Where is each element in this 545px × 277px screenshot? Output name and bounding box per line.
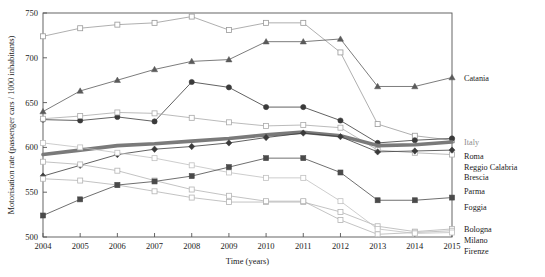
data-point-open-square [41, 34, 46, 39]
data-point-open-square [264, 20, 269, 25]
x-tick-label: 2012 [332, 241, 349, 251]
data-point-open-square [189, 187, 194, 192]
data-point-open-square [264, 123, 269, 128]
legend-label-foggia: Foggia [464, 203, 487, 212]
data-point-open-square [301, 123, 306, 128]
data-point-open-square [152, 156, 157, 161]
x-tick-label: 2015 [444, 241, 461, 251]
data-point-filled-circle [226, 85, 231, 90]
legend-label-italy: Italy [464, 138, 480, 147]
legend-label-catania: Catania [464, 74, 489, 83]
data-point-open-square [301, 175, 306, 180]
data-point-open-square [115, 22, 120, 27]
data-point-open-square [375, 226, 380, 231]
data-point-open-square [41, 116, 46, 121]
data-point-filled-circle [301, 104, 306, 109]
data-point-filled-square [375, 198, 380, 203]
data-point-open-square [115, 150, 120, 155]
x-tick-label: 2007 [146, 241, 163, 251]
data-point-filled-square [115, 183, 120, 188]
data-point-filled-square [152, 179, 157, 184]
data-point-filled-circle [189, 79, 194, 84]
data-point-open-square [338, 199, 343, 204]
data-point-open-square [226, 200, 231, 205]
y-tick-label: 750 [25, 8, 38, 18]
x-tick-label: 2005 [72, 241, 89, 251]
chart-figure: 500550600650700750 200420052006200720082… [0, 0, 545, 277]
data-point-open-square [78, 178, 83, 183]
data-point-filled-square [338, 170, 343, 175]
data-point-open-square [189, 163, 194, 168]
legend-label-milano: Milano [464, 236, 488, 245]
legend-label-parma: Parma [464, 187, 485, 196]
y-axis-title: Motorisation rate (passenger cars / 1000… [6, 35, 16, 214]
y-tick-label: 700 [25, 53, 38, 63]
data-point-open-square [189, 115, 194, 120]
x-axis-title: Time (years) [226, 256, 270, 266]
data-point-open-square [115, 168, 120, 173]
data-point-open-square [264, 175, 269, 180]
y-tick-label: 550 [25, 187, 38, 197]
data-point-open-square [78, 145, 83, 150]
legend-label-roma: Roma [464, 152, 484, 161]
data-point-open-square [338, 209, 343, 214]
data-point-open-square [375, 122, 380, 127]
data-point-filled-square [78, 197, 83, 202]
data-point-open-square [41, 176, 46, 181]
motorisation-rate-line-chart: 500550600650700750 200420052006200720082… [0, 0, 545, 277]
data-point-open-square [41, 159, 46, 164]
x-tick-label: 2004 [35, 241, 53, 251]
data-point-filled-square [41, 213, 46, 218]
data-point-filled-circle [263, 104, 268, 109]
data-point-open-square [226, 170, 231, 175]
data-point-open-square [152, 111, 157, 116]
data-point-filled-circle [152, 119, 157, 124]
data-point-open-square [375, 232, 380, 237]
x-tick-label: 2011 [295, 241, 312, 251]
x-tick-label: 2013 [369, 241, 386, 251]
data-point-open-square [338, 217, 343, 222]
legend-label-bologna: Bologna [464, 225, 492, 234]
data-point-open-square [264, 199, 269, 204]
x-tick-label: 2009 [220, 241, 237, 251]
data-point-open-square [152, 189, 157, 194]
data-point-open-square [338, 50, 343, 55]
y-tick-label: 650 [25, 98, 38, 108]
data-point-open-square [301, 199, 306, 204]
data-point-open-square [338, 125, 343, 130]
data-point-open-square [41, 140, 46, 145]
x-tick-label: 2006 [109, 241, 126, 251]
data-point-open-square [226, 28, 231, 33]
data-point-filled-square [226, 165, 231, 170]
data-point-open-square [152, 20, 157, 25]
data-point-open-square [450, 230, 455, 235]
data-point-open-square [78, 26, 83, 31]
y-tick-label: 600 [25, 142, 38, 152]
data-point-open-square [189, 195, 194, 200]
legend-label-brescia: Brescia [464, 173, 489, 182]
data-point-filled-square [264, 156, 269, 161]
data-point-open-square [226, 193, 231, 198]
data-point-open-square [301, 20, 306, 25]
data-point-open-square [115, 110, 120, 115]
x-tick-label: 2008 [183, 241, 200, 251]
x-tick-label: 2010 [258, 241, 275, 251]
data-point-open-square [226, 120, 231, 125]
data-point-open-square [78, 162, 83, 167]
data-point-filled-circle [338, 118, 343, 123]
data-point-filled-square [301, 156, 306, 161]
data-point-open-square [78, 114, 83, 119]
data-point-open-square [189, 14, 194, 19]
legend-label-firenze: Firenze [464, 247, 489, 256]
data-point-filled-square [450, 195, 455, 200]
legend-label-reggio-calabria: Reggio Calabria [464, 163, 518, 172]
data-point-filled-square [412, 198, 417, 203]
data-point-open-square [412, 231, 417, 236]
data-point-filled-square [189, 174, 194, 179]
data-point-filled-circle [412, 138, 417, 143]
x-tick-label: 2014 [406, 241, 424, 251]
